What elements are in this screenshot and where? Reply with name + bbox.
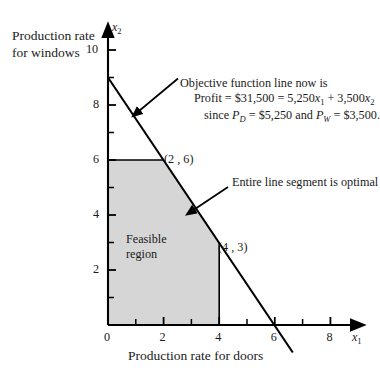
y-axis-title-line2: for windows <box>12 45 95 62</box>
objective-line3-p1: P <box>232 108 239 122</box>
objective-line3-pre: since <box>204 108 232 122</box>
feasible-region-label: Feasible region <box>126 232 167 263</box>
y-tick-label-10: 10 <box>86 42 98 57</box>
y-axis-variable-label: x2 <box>112 20 122 37</box>
vertex-label-2-6: (2 , 6) <box>164 152 193 167</box>
x-tick-label-0: 0 <box>104 330 110 345</box>
x-tick-label-4: 4 <box>215 330 221 345</box>
x-tick-label-2: 2 <box>160 330 166 345</box>
y-tick-label-4: 4 <box>93 207 99 222</box>
feasible-region-label-line2: region <box>126 247 167 262</box>
segment-annotation: Entire line segment is optimal <box>232 175 378 190</box>
vertex-label-4-3: (4 , 3) <box>218 240 247 255</box>
objective-line3-v1: = $5,250 and <box>246 108 316 122</box>
y-tick-label-6: 6 <box>93 152 99 167</box>
objective-line2-pre: Profit = $31,500 = 5,250 <box>194 91 315 105</box>
feasible-region-label-line1: Feasible <box>126 232 167 247</box>
objective-line3-v2: = $3,500. <box>330 108 380 122</box>
segment-note-arrow <box>194 187 229 210</box>
x-tick-label-6: 6 <box>271 330 277 345</box>
y-tick-label-8: 8 <box>93 97 99 112</box>
x-axis-variable-sub: 1 <box>357 336 361 346</box>
x-axis-variable-label: x1 <box>352 330 362 347</box>
objective-annotation-line3: since PD = $5,250 and PW = $3,500. <box>204 108 380 125</box>
x-axis-title: Production rate for doors <box>128 348 263 365</box>
objective-annotation-line1: Objective function line now is <box>180 76 380 91</box>
objective-line2-var2-sub: 2 <box>370 98 374 108</box>
objective-note-arrow <box>139 79 178 112</box>
objective-function-annotation: Objective function line now is Profit = … <box>180 76 380 125</box>
y-axis-title: Production rate for windows <box>12 28 95 62</box>
x-tick-label-8: 8 <box>326 330 332 345</box>
objective-line2-mid: + 3,500 <box>324 91 364 105</box>
y-axis-title-line1: Production rate <box>12 28 95 45</box>
objective-annotation-line2: Profit = $31,500 = 5,250x1 + 3,500x2 <box>194 91 380 108</box>
y-axis-variable-sub: 2 <box>117 26 121 36</box>
y-tick-label-2: 2 <box>93 262 99 277</box>
